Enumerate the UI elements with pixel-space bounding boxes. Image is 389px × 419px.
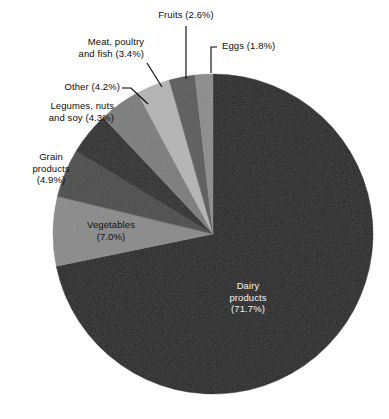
leader-line-eggs: [211, 47, 217, 73]
label-grain-line1: Grain: [39, 151, 63, 162]
label-other: Other (4.2%): [20, 81, 120, 93]
label-meat-line2: and fish (3.4%): [79, 48, 144, 59]
pie-chart-canvas: [0, 0, 389, 419]
label-fruits: Fruits (2.6%): [134, 9, 238, 21]
label-grain-line3: (4.9%): [37, 174, 66, 185]
label-legumes-line2: and soy (4.3%): [49, 112, 114, 123]
label-vegetables: Vegetables (7.0%): [62, 219, 160, 242]
label-grain-products: Grain products (4.9%): [8, 151, 94, 186]
label-meat-poultry-fish: Meat, poultry and fish (3.4%): [32, 36, 144, 59]
leader-line-meat: [147, 63, 162, 87]
label-dairy-line2: products: [229, 292, 266, 303]
label-eggs: Eggs (1.8%): [222, 40, 332, 52]
label-legumes-line1: Legumes, nuts: [50, 100, 114, 111]
label-legumes-nuts-soy: Legumes, nuts and soy (4.3%): [2, 100, 114, 123]
label-vegetables-line1: Vegetables: [87, 219, 135, 230]
label-dairy-products: Dairy products (71.7%): [196, 280, 300, 315]
label-vegetables-line2: (7.0%): [97, 231, 126, 242]
label-dairy-line3: (71.7%): [231, 303, 265, 314]
label-meat-line1: Meat, poultry: [88, 36, 144, 47]
label-grain-line2: products: [32, 163, 69, 174]
label-dairy-line1: Dairy: [237, 280, 260, 291]
pie-chart: Fruits (2.6%) Eggs (1.8%) Meat, poultry …: [0, 0, 389, 419]
